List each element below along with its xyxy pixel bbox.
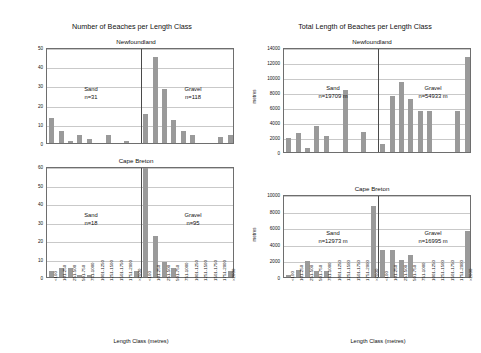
bar bbox=[296, 133, 301, 152]
gridline bbox=[284, 246, 470, 247]
y-tick-label: 30 bbox=[12, 84, 43, 89]
cb-count-sand-label: Sand bbox=[56, 211, 126, 219]
bar bbox=[171, 120, 176, 143]
gridline bbox=[284, 64, 470, 65]
series-divider bbox=[141, 49, 142, 143]
x-tick-label: 751-1000 bbox=[327, 262, 332, 281]
bar bbox=[106, 135, 111, 143]
x-tick-label: 251-500 bbox=[166, 265, 171, 281]
x-tick-label: 1001-1250 bbox=[100, 260, 105, 281]
bar bbox=[427, 111, 432, 152]
x-tick-label: 1001-1250 bbox=[337, 260, 342, 281]
y-tick-label: 2000 bbox=[249, 136, 280, 141]
bar bbox=[124, 141, 129, 143]
bar bbox=[314, 126, 319, 152]
y-tick-label: 50 bbox=[12, 183, 43, 188]
y-tick-label: 0 bbox=[12, 276, 43, 281]
x-tick-label: >2000 bbox=[137, 269, 142, 281]
y-tick-label: 10000 bbox=[249, 193, 280, 198]
bar bbox=[218, 137, 223, 143]
nl-count-subtitle: Newfoundland bbox=[36, 38, 236, 45]
x-tick-label: 1251-1500 bbox=[440, 260, 445, 281]
x-tick-label: 251-500 bbox=[309, 265, 314, 281]
x-tick-label: <100 bbox=[53, 271, 58, 281]
bar bbox=[408, 99, 413, 152]
nl-length-gravel-group: Gravel n=54933 m bbox=[393, 84, 473, 101]
cb-length-y-axis-title: metres bbox=[252, 215, 257, 255]
x-tick-label: 1501-1750 bbox=[450, 260, 455, 281]
y-tick-label: 10 bbox=[12, 257, 43, 262]
bar bbox=[465, 57, 470, 152]
x-tick-label: 1501-1750 bbox=[356, 260, 361, 281]
x-tick-label: <100 bbox=[147, 271, 152, 281]
x-tick-label: <100 bbox=[290, 271, 295, 281]
bar bbox=[143, 167, 148, 277]
x-tick-label: >2000 bbox=[231, 269, 236, 281]
y-tick-label: 40 bbox=[12, 202, 43, 207]
x-tick-label: 501-750 bbox=[412, 265, 417, 281]
bar bbox=[59, 131, 64, 143]
x-tick-label: 1001-1250 bbox=[431, 260, 436, 281]
x-tick-label: 1001-1250 bbox=[194, 260, 199, 281]
nl-count-sand-group: Sand n=31 bbox=[56, 85, 126, 102]
x-tick-label: 501-750 bbox=[81, 265, 86, 281]
gridline bbox=[284, 49, 470, 50]
x-tick-label: 751-1000 bbox=[90, 262, 95, 281]
bar bbox=[77, 135, 82, 143]
bar bbox=[143, 114, 148, 143]
gridline bbox=[47, 68, 233, 69]
bar bbox=[418, 111, 423, 152]
x-tick-label: 1751-2000 bbox=[459, 260, 464, 281]
y-tick-label: 8000 bbox=[249, 209, 280, 214]
nl-length-subtitle: Newfoundland bbox=[272, 38, 472, 45]
nl-count-sand-n: n=31 bbox=[56, 93, 126, 101]
gridline bbox=[47, 107, 233, 108]
gridline bbox=[284, 124, 470, 125]
left-figure-title: Number of Beaches per Length Class bbox=[32, 22, 232, 31]
bar bbox=[286, 138, 291, 152]
cb-length-sand-label: Sand bbox=[293, 229, 373, 237]
x-tick-label: 1751-2000 bbox=[128, 260, 133, 281]
bar bbox=[68, 141, 73, 143]
x-tick-label: 1251-1500 bbox=[203, 260, 208, 281]
y-tick-label: 14000 bbox=[249, 46, 280, 51]
right-x-axis-label: Length Class (metres) bbox=[303, 338, 453, 344]
cb-length-subtitle: Cape Breton bbox=[272, 185, 472, 192]
gridline bbox=[47, 49, 233, 50]
bar bbox=[390, 96, 395, 152]
cb-count-subtitle: Cape Breton bbox=[36, 157, 236, 164]
y-tick-label: 30 bbox=[12, 220, 43, 225]
x-tick-label: 501-750 bbox=[318, 265, 323, 281]
gridline bbox=[47, 126, 233, 127]
cb-count-gravel-n: n=95 bbox=[158, 219, 228, 227]
x-tick-label: 1751-2000 bbox=[365, 260, 370, 281]
x-tick-label: 1251-1500 bbox=[346, 260, 351, 281]
cb-length-gravel-label: Gravel bbox=[393, 229, 473, 237]
gridline bbox=[284, 109, 470, 110]
x-tick-label: 1751-2000 bbox=[222, 260, 227, 281]
gridline bbox=[47, 205, 233, 206]
nl-length-gravel-label: Gravel bbox=[393, 84, 473, 92]
series-divider bbox=[378, 49, 379, 152]
bar bbox=[153, 57, 158, 143]
x-tick-label: 251-500 bbox=[72, 265, 77, 281]
gridline bbox=[284, 79, 470, 80]
bar bbox=[380, 144, 385, 152]
cb-length-sand-n: n=12973 m bbox=[293, 237, 373, 245]
bar bbox=[324, 136, 329, 152]
y-tick-label: 2000 bbox=[249, 259, 280, 264]
gridline bbox=[284, 196, 470, 197]
right-figure-title: Total Length of Beaches per Length Class bbox=[260, 22, 470, 31]
bar bbox=[305, 148, 310, 152]
x-tick-label: 1251-1500 bbox=[109, 260, 114, 281]
gridline bbox=[47, 242, 233, 243]
y-tick-label: 10 bbox=[12, 122, 43, 127]
series-divider bbox=[141, 168, 142, 277]
gridline bbox=[47, 168, 233, 169]
y-tick-label: 0 bbox=[249, 151, 280, 156]
x-tick-label: >2000 bbox=[374, 269, 379, 281]
x-tick-label: 101-250 bbox=[156, 265, 161, 281]
x-tick-label: 1501-1750 bbox=[119, 260, 124, 281]
cb-count-gravel-label: Gravel bbox=[158, 211, 228, 219]
y-tick-label: 20 bbox=[12, 239, 43, 244]
